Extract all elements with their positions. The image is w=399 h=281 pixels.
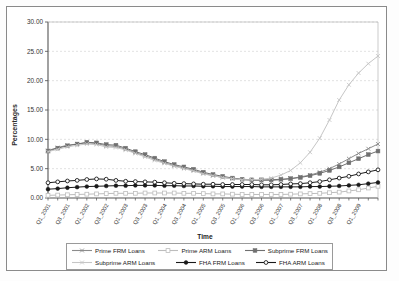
legend-label-subprime-frm-loans: Subprime FRM Loans	[268, 247, 328, 254]
chart-screenshot: 0.005.0010.0015.0020.0025.0030.00 Q1_200…	[0, 0, 399, 281]
legend-swatch-prime-arm-loans	[157, 246, 179, 255]
legend-item-prime-frm-loans: Prime FRM Loans	[71, 246, 153, 255]
y-tick-label: 30.00	[27, 18, 43, 25]
legend-item-prime-arm-loans: Prime ARM Loans	[157, 246, 239, 255]
x-axis-ticks: Q1_2001Q3_2001Q1_2002Q3_2002Q1_2003Q3_20…	[35, 198, 378, 225]
legend-item-subprime-frm-loans: Subprime FRM Loans	[244, 246, 332, 255]
legend-row-2: Subprime ARM Loans FHA FRM Loans FHA ARM…	[67, 256, 332, 268]
x-tick-label: Q3_2002	[93, 203, 110, 226]
x-tick-label: Q3_2005	[209, 203, 226, 226]
y-tick-label: 0.00	[31, 194, 44, 201]
series-subprime-arm-loans	[46, 54, 380, 182]
x-tick-label: Q1_2001	[35, 203, 52, 226]
legend-swatch-subprime-frm-loans	[244, 246, 266, 255]
x-tick-label: Q3_2008	[326, 203, 343, 226]
legend-item-subprime-arm-loans: Subprime ARM Loans	[71, 258, 171, 267]
legend-swatch-fha-frm-loans	[175, 258, 197, 267]
x-tick-label: Q3_2001	[54, 203, 71, 226]
x-tick-label: Q3_2003	[132, 203, 149, 226]
legend-label-prime-frm-loans: Prime FRM Loans	[95, 247, 145, 254]
x-axis-title: Time	[197, 233, 213, 240]
x-tick-label: Q1_2009	[345, 203, 362, 226]
y-tick-label: 5.00	[31, 165, 44, 172]
y-tick-label: 10.00	[27, 136, 43, 143]
chart-legend: Prime FRM Loans Prime ARM Loans Subprime…	[66, 243, 333, 270]
y-tick-label: 20.00	[27, 77, 43, 84]
legend-swatch-subprime-arm-loans	[71, 258, 93, 267]
legend-item-fha-arm-loans: FHA ARM Loans	[255, 258, 331, 267]
y-axis-title: Percentages	[11, 104, 19, 146]
x-tick-label: Q1_2006	[229, 203, 246, 226]
x-tick-label: Q3_2004	[171, 203, 188, 226]
x-tick-label: Q3_2007	[287, 203, 304, 226]
x-tick-label: Q1_2005	[190, 203, 207, 226]
x-tick-label: Q1_2003	[112, 203, 129, 226]
y-axis-ticks: 0.005.0010.0015.0020.0025.0030.00	[27, 18, 48, 201]
legend-label-fha-arm-loans: FHA ARM Loans	[279, 259, 325, 266]
x-tick-label: Q1_2002	[73, 203, 90, 226]
x-tick-label: Q1_2008	[306, 203, 323, 226]
y-tick-label: 25.00	[27, 48, 43, 55]
legend-item-fha-frm-loans: FHA FRM Loans	[175, 258, 251, 267]
legend-swatch-prime-frm-loans	[71, 246, 93, 255]
series-lines	[46, 54, 380, 197]
x-tick-label: Q3_2006	[248, 203, 265, 226]
legend-label-subprime-arm-loans: Subprime ARM Loans	[95, 259, 155, 266]
x-tick-label: Q1_2004	[151, 203, 168, 226]
legend-row-1: Prime FRM Loans Prime ARM Loans Subprime…	[67, 244, 332, 256]
legend-label-fha-frm-loans: FHA FRM Loans	[199, 259, 245, 266]
legend-label-prime-arm-loans: Prime ARM Loans	[181, 247, 231, 254]
gridlines	[48, 22, 378, 169]
x-tick-label: Q1_2007	[268, 203, 285, 226]
line-chart: 0.005.0010.0015.0020.0025.0030.00 Q1_200…	[0, 0, 399, 281]
y-tick-label: 15.00	[27, 106, 43, 113]
legend-swatch-fha-arm-loans	[255, 258, 277, 267]
